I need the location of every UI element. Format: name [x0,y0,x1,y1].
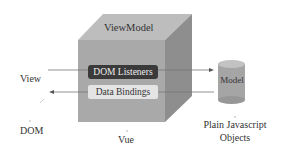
vue-dot [126,130,128,132]
vue-caption: Vue [118,134,134,145]
cube-front-face [78,40,165,122]
dom-connector-mark [40,99,44,103]
dom-listeners-box: DOM Listeners [88,65,158,79]
viewmodel-title: ViewModel [104,22,154,33]
model-caption-line2: Objects [200,132,270,143]
model-dot [234,116,236,118]
mvvm-diagram: ViewModel DOM Listeners Data Bindings Vi… [0,0,283,157]
model-label: Model [218,75,246,85]
model-caption-line1: Plain Javascript [200,119,270,130]
dom-dot [29,120,31,122]
arrowhead-left-icon [49,90,54,94]
dom-caption: DOM [20,125,43,136]
data-bindings-box: Data Bindings [88,85,158,99]
arrowhead-right-icon [209,68,214,72]
view-label: View [20,73,41,84]
